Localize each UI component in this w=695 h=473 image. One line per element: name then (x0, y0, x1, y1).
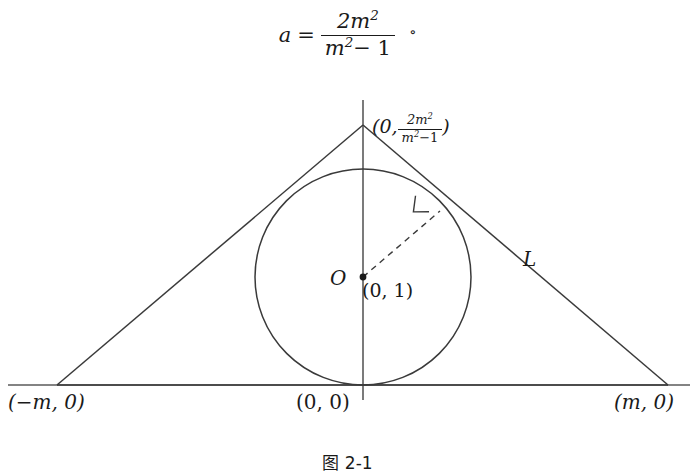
center-point-label: O (330, 268, 346, 288)
apex-denominator-tail: −1 (419, 130, 438, 145)
figure-caption: 图 2-1 (0, 449, 695, 473)
apex-numerator-exponent: 2 (428, 111, 433, 121)
center-coordinate-label: (0, 1) (362, 281, 413, 300)
figure-container: a = 2m2 m2− 1 ∘ (0,2m2m2− (0, 0, 695, 473)
triangle-right-side-L (363, 125, 668, 385)
right-vertex-label: (m, 0) (614, 392, 674, 412)
line-L-label: L (523, 249, 536, 269)
origin-label: (0, 0) (296, 392, 350, 412)
right-angle-marker (406, 196, 429, 220)
radius-dashed-line (363, 211, 440, 277)
apex-prefix: (0, (372, 115, 398, 137)
left-vertex-label: (−m, 0) (8, 392, 85, 412)
apex-coordinate-label: (0,2m2m2−1) (372, 112, 450, 144)
apex-numerator: 2m2 (403, 113, 437, 129)
apex-denominator: m2−1 (398, 130, 443, 146)
apex-fraction: 2m2m2−1 (398, 113, 443, 145)
triangle-left-side (57, 125, 363, 385)
apex-suffix: ) (442, 115, 449, 137)
